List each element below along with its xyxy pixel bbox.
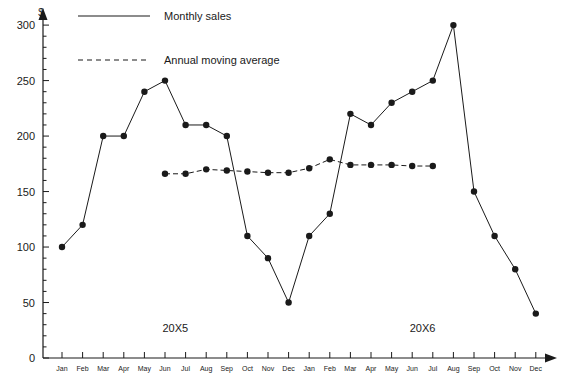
data-point xyxy=(244,233,250,239)
x-tick-label: Feb xyxy=(324,365,336,372)
data-point xyxy=(533,310,539,316)
data-point xyxy=(265,255,271,261)
data-point xyxy=(203,122,209,128)
x-tick-label: Nov xyxy=(262,365,275,372)
x-tick-label: Jun xyxy=(159,365,170,372)
x-tick-label: Feb xyxy=(77,365,89,372)
x-tick-label: Jul xyxy=(181,365,190,372)
y-axis xyxy=(39,8,48,358)
data-point xyxy=(203,166,209,172)
data-point xyxy=(368,122,374,128)
data-point xyxy=(388,162,394,168)
x-tick-label: Apr xyxy=(118,365,130,373)
period-label-group: 20X520X6 xyxy=(162,322,435,334)
data-point xyxy=(306,233,312,239)
data-point xyxy=(285,299,291,305)
x-tick-label: May xyxy=(138,365,152,373)
x-tick-label: Jun xyxy=(407,365,418,372)
data-point xyxy=(100,133,106,139)
data-point xyxy=(162,77,168,83)
x-tick-label: Apr xyxy=(366,365,378,373)
data-point xyxy=(306,165,312,171)
x-tick-label: Nov xyxy=(509,365,522,372)
data-point xyxy=(327,156,333,162)
x-tick-label: Aug xyxy=(447,365,460,373)
data-point xyxy=(327,211,333,217)
data-point xyxy=(430,163,436,169)
x-tick-label: Jan xyxy=(56,365,67,372)
data-point xyxy=(471,188,477,194)
y-tick-label: 300 xyxy=(17,19,35,31)
data-point xyxy=(388,100,394,106)
y-tick-group: 050100150200250300 xyxy=(17,19,49,364)
y-tick-label: 100 xyxy=(17,241,35,253)
data-point xyxy=(224,167,230,173)
y-tick-label: 50 xyxy=(23,297,35,309)
data-point xyxy=(224,133,230,139)
series-line-monthly-sales xyxy=(62,25,536,314)
x-tick-label: Dec xyxy=(530,365,543,372)
x-tick-label: Aug xyxy=(200,365,213,373)
legend-label-annual-moving-average: Annual moving average xyxy=(164,54,280,66)
x-tick-label: Oct xyxy=(489,365,500,372)
data-point xyxy=(450,22,456,28)
data-point xyxy=(79,222,85,228)
y-tick-label: 0 xyxy=(29,352,35,364)
legend-label-monthly-sales: Monthly sales xyxy=(164,10,232,22)
data-point xyxy=(244,168,250,174)
series-layer xyxy=(59,22,539,317)
period-label: 20X6 xyxy=(410,322,436,334)
x-tick-label: May xyxy=(385,365,399,373)
data-point xyxy=(409,88,415,94)
x-tick-group xyxy=(62,352,536,358)
data-point xyxy=(182,122,188,128)
x-tick-label: Mar xyxy=(97,365,110,372)
data-point xyxy=(512,266,518,272)
x-tick-label: Jul xyxy=(428,365,437,372)
x-tick-label: Oct xyxy=(242,365,253,372)
data-point xyxy=(368,162,374,168)
data-point xyxy=(59,244,65,250)
y-axis-unit: $ xyxy=(38,7,44,18)
y-tick-label: 150 xyxy=(17,186,35,198)
data-point xyxy=(491,233,497,239)
sales-line-chart: $ 050100150200250300 JanFebMarAprMayJunJ… xyxy=(0,0,562,376)
x-tick-label: Sep xyxy=(468,365,481,373)
data-point xyxy=(409,163,415,169)
x-axis xyxy=(43,354,557,363)
data-point xyxy=(265,169,271,175)
y-tick-label: 250 xyxy=(17,75,35,87)
x-axis-arrow xyxy=(545,354,557,363)
period-label: 20X5 xyxy=(162,322,188,334)
data-point xyxy=(162,171,168,177)
x-tick-label-group: JanFebMarAprMayJunJulAugSepOctNovDecJanF… xyxy=(56,365,542,373)
data-point xyxy=(430,77,436,83)
x-tick-label: Jan xyxy=(304,365,315,372)
data-point xyxy=(182,171,188,177)
data-point xyxy=(141,88,147,94)
y-tick-label: 200 xyxy=(17,130,35,142)
x-tick-label: Sep xyxy=(221,365,234,373)
data-point xyxy=(121,133,127,139)
chart-legend: Monthly sales Annual moving average xyxy=(78,10,280,66)
x-tick-label: Dec xyxy=(282,365,295,372)
data-point xyxy=(347,162,353,168)
data-point xyxy=(347,111,353,117)
x-tick-label: Mar xyxy=(344,365,357,372)
chart-canvas: $ 050100150200250300 JanFebMarAprMayJunJ… xyxy=(0,0,562,376)
data-point xyxy=(285,169,291,175)
